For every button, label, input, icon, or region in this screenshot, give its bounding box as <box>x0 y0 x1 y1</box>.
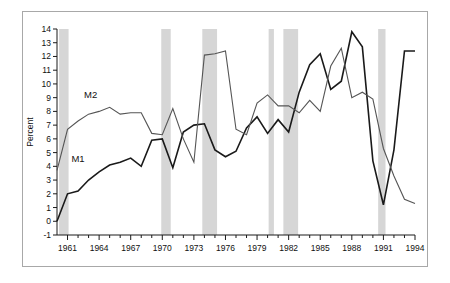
recession-band <box>378 29 385 235</box>
recession-bands-group <box>59 29 385 235</box>
y-tick-label: 2 <box>46 189 51 199</box>
y-tick-label: 4 <box>46 161 51 171</box>
series-annotations-group: M1M2 <box>71 89 97 165</box>
y-tick-label: 0 <box>46 216 51 226</box>
y-tick-label: 11 <box>42 65 51 75</box>
x-tick-label: 1988 <box>342 243 361 253</box>
line-chart: -101234567891011121314 19611964196719701… <box>23 12 427 266</box>
x-tick-labels-group: 1961196419671970197319761979198219851988… <box>58 235 425 253</box>
recession-band <box>283 29 298 235</box>
y-tick-label: 7 <box>46 120 51 130</box>
y-tick-label: 13 <box>42 38 52 48</box>
x-tick-label: 1985 <box>311 243 330 253</box>
y-tick-labels-group: -101234567891011121314 <box>42 24 57 240</box>
x-tick-label: 1976 <box>216 243 235 253</box>
recession-band <box>202 29 217 235</box>
x-tick-label: 1964 <box>90 243 109 253</box>
y-tick-label: 10 <box>42 79 52 89</box>
y-tick-label: 12 <box>42 51 52 61</box>
x-tick-label: 1961 <box>58 243 77 253</box>
y-tick-label: 8 <box>46 106 51 116</box>
axes-group <box>57 29 415 235</box>
x-tick-label: 1979 <box>248 243 267 253</box>
x-tick-label: 1982 <box>279 243 298 253</box>
x-tick-label: 1994 <box>406 243 425 253</box>
y-tick-label: 6 <box>46 134 51 144</box>
series-group <box>57 32 415 222</box>
y-tick-label: 9 <box>46 93 51 103</box>
y-tick-label: 3 <box>46 175 51 185</box>
y-tick-label: -1 <box>43 230 51 240</box>
x-tick-label: 1970 <box>153 243 172 253</box>
series-line-m2 <box>57 48 415 203</box>
recession-band <box>161 29 170 235</box>
y-axis-title: Percent <box>25 117 35 147</box>
x-tick-label: 1967 <box>121 243 140 253</box>
x-tick-label: 1973 <box>184 243 203 253</box>
series-label-m2: M2 <box>84 89 97 100</box>
figure-root: -101234567891011121314 19611964196719701… <box>0 0 450 283</box>
y-tick-label: 1 <box>46 203 51 213</box>
series-label-m1: M1 <box>71 153 84 164</box>
y-tick-label: 5 <box>46 148 51 158</box>
x-tick-label: 1991 <box>374 243 393 253</box>
y-axis-title-group: Percent <box>25 117 35 147</box>
y-tick-label: 14 <box>42 24 52 34</box>
chart-frame: -101234567891011121314 19611964196719701… <box>22 11 428 267</box>
